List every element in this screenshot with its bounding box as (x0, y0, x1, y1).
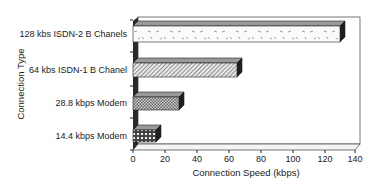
connection-speed-chart: 0 20 40 60 80 100 120 140 128 kbs ISDN-2… (0, 0, 376, 186)
y-axis-ticks (130, 20, 133, 150)
x-tick-labels: 0 20 40 60 80 100 120 140 (130, 154, 362, 164)
bar-64-isdn-1 (133, 58, 242, 77)
svg-text:120: 120 (317, 154, 332, 164)
svg-text:0: 0 (130, 154, 135, 164)
svg-text:140: 140 (347, 154, 362, 164)
svg-text:80: 80 (256, 154, 266, 164)
bar-128-isdn-2 (133, 21, 345, 42)
svg-text:20: 20 (160, 154, 170, 164)
bar-14-4-modem (133, 125, 161, 142)
category-label: 28.8 kbps Modem (55, 98, 127, 108)
category-labels: 128 kbs ISDN-2 B Chanels 64 kbs ISDN-1 B… (19, 29, 127, 141)
svg-text:60: 60 (224, 154, 234, 164)
category-label: 128 kbs ISDN-2 B Chanels (19, 29, 127, 39)
category-label: 64 kbs ISDN-1 B Chanel (29, 65, 127, 75)
bar-28-8-modem (133, 92, 184, 110)
x-axis-ticks (133, 150, 355, 153)
x-axis-title: Connection Speed (kbps) (192, 167, 299, 178)
category-label: 14.4 kbps Modem (55, 131, 127, 141)
svg-text:100: 100 (285, 154, 300, 164)
svg-text:40: 40 (192, 154, 202, 164)
y-axis-title: Connection Type (15, 48, 26, 119)
